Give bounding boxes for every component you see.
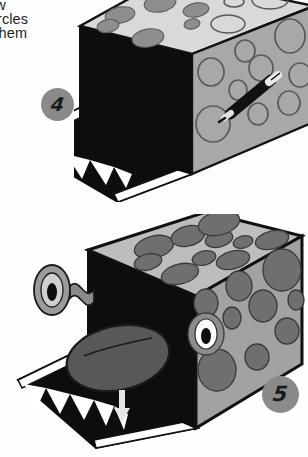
- monster-box-step-5-illustration: [10, 214, 308, 457]
- step-badge-5: 5: [262, 376, 299, 413]
- step-badge-5-label: 5: [272, 382, 289, 406]
- step-badge-4-label: 4: [50, 93, 66, 115]
- loose-eye-with-tab-step5: [34, 265, 94, 315]
- monster-eye-step5: [188, 313, 224, 355]
- step-badge-4: 4: [41, 88, 74, 121]
- monster-box-step-4-illustration: [74, 0, 308, 202]
- illustration-page: draw e circles nd them: [0, 0, 308, 457]
